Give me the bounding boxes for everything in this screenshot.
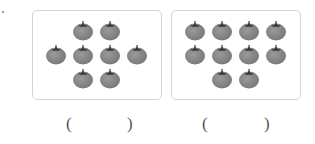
tomato-icon [72, 68, 94, 89]
bullet-mark [2, 11, 4, 13]
tomato-icon [126, 44, 148, 65]
answer-1-open-paren: ( [66, 114, 72, 134]
tomato-icon [211, 68, 233, 89]
answer-2-blank[interactable] [212, 114, 260, 134]
tomato-icon [99, 20, 121, 41]
tomato-icon [184, 44, 206, 65]
answer-1-close-paren: ) [127, 114, 133, 134]
answer-2-close-paren: ) [264, 114, 270, 134]
tomato-icon [99, 68, 121, 89]
tomato-icon [211, 44, 233, 65]
tomato-icon [265, 44, 287, 65]
tomato-group-1 [32, 10, 162, 100]
tomato-icon [238, 68, 260, 89]
tomato-icon [238, 20, 260, 41]
tomato-icon [211, 20, 233, 41]
tomato-icon [45, 44, 67, 65]
tomato-icon [72, 44, 94, 65]
tomato-icon [72, 20, 94, 41]
tomato-icon [99, 44, 121, 65]
tomato-group-2 [171, 10, 301, 100]
tomato-icon [184, 20, 206, 41]
tomato-icon [265, 20, 287, 41]
answer-2-open-paren: ( [202, 114, 208, 134]
tomato-icon [238, 44, 260, 65]
answer-1-blank[interactable] [76, 114, 124, 134]
